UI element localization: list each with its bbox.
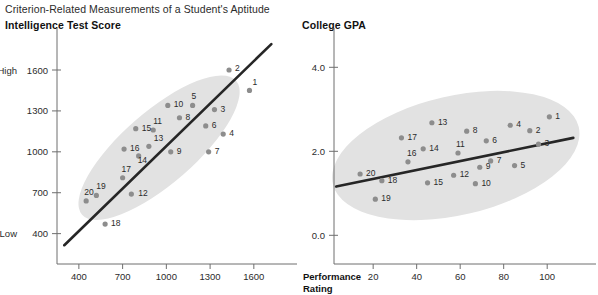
data-point-label: 4 [229, 128, 234, 138]
y-tick-label: 1000 [27, 146, 48, 157]
data-point-label: 7 [497, 155, 502, 165]
data-point [451, 173, 456, 178]
y-axis-high-label: High [0, 65, 17, 76]
data-point-label: 7 [215, 146, 220, 156]
data-point [373, 197, 378, 202]
data-point [484, 138, 489, 143]
data-point [547, 114, 552, 119]
data-point [221, 131, 226, 136]
data-cloud-ellipse [58, 53, 259, 241]
x-tick-label: 1000 [156, 271, 177, 282]
data-point [455, 150, 460, 155]
data-point-label: 9 [486, 161, 491, 171]
data-point-label: 3 [220, 104, 225, 114]
data-point [129, 191, 134, 196]
data-point [247, 88, 252, 93]
data-point-label: 15 [434, 177, 444, 187]
figure-root: Criterion-Related Measurements of a Stud… [0, 0, 598, 295]
data-cloud-ellipse [319, 69, 592, 242]
data-point-label: 19 [96, 181, 106, 191]
data-point [536, 142, 541, 147]
data-point-label: 18 [388, 175, 398, 185]
data-point [212, 107, 217, 112]
x-tick-label: 80 [498, 271, 509, 282]
y-axis-low-label: Low [0, 228, 17, 239]
data-point-label: 17 [407, 132, 417, 142]
data-point [133, 126, 138, 131]
data-point-label: 1 [555, 111, 560, 121]
data-point-label: 5 [521, 160, 526, 170]
x-tick-label: 40 [411, 271, 422, 282]
data-point-label: 17 [122, 164, 132, 174]
data-point-label: 11 [456, 139, 465, 149]
data-point-label: 13 [154, 133, 164, 143]
data-point-label: 3 [544, 138, 549, 148]
data-point [464, 129, 469, 134]
data-point [399, 135, 404, 140]
trend-line [64, 44, 271, 245]
y-tick-label: 0.0 [312, 230, 325, 241]
y-tick-label: 1300 [27, 105, 48, 116]
data-point [473, 181, 478, 186]
y-tick-label: 700 [32, 187, 48, 198]
y-tick-label: 2.0 [312, 146, 325, 157]
panel-gpa: College GPA 204060801000.02.04.0Performa… [298, 0, 598, 295]
data-point-label: 9 [177, 146, 182, 156]
x-tick-label: 1600 [243, 271, 264, 282]
data-point [165, 103, 170, 108]
x-tick-label: 60 [455, 271, 466, 282]
data-point-label: 1 [252, 77, 257, 87]
data-point-label: 13 [438, 117, 448, 127]
data-point-label: 20 [84, 187, 94, 197]
data-point-label: 16 [130, 143, 140, 153]
data-point [146, 144, 151, 149]
data-point-label: 11 [153, 116, 162, 126]
data-point-label: 20 [366, 168, 376, 178]
data-point-label: 8 [185, 112, 190, 122]
data-point [379, 178, 384, 183]
data-point [103, 221, 108, 226]
x-tick-label: 400 [71, 271, 87, 282]
data-point-label: 12 [138, 188, 148, 198]
data-point-label: 19 [381, 193, 391, 203]
data-point [94, 193, 99, 198]
data-point-label: 14 [429, 143, 439, 153]
data-point-label: 15 [142, 123, 152, 133]
data-point-label: 2 [235, 63, 240, 73]
data-point-label: 5 [192, 91, 197, 101]
data-point [206, 149, 211, 154]
data-point-label: 2 [536, 125, 541, 135]
data-point-label: 18 [111, 218, 121, 228]
data-point-label: 14 [138, 155, 148, 165]
data-point [177, 115, 182, 120]
chart-gpa: 204060801000.02.04.0PerformanceRating123… [298, 0, 598, 295]
data-point [405, 159, 410, 164]
x-tick-label: 1300 [200, 271, 221, 282]
data-point [527, 128, 532, 133]
data-point [203, 123, 208, 128]
data-point [512, 163, 517, 168]
x-tick-label: 700 [115, 271, 131, 282]
data-point [358, 171, 363, 176]
data-point [477, 165, 482, 170]
y-tick-label: 1600 [27, 65, 48, 76]
panel-intelligence: Intelligence Test Score 4007001000130016… [0, 0, 300, 295]
y-tick-label: 400 [32, 228, 48, 239]
x-tick-label: 100 [539, 271, 555, 282]
y-tick-label: 4.0 [312, 62, 325, 73]
data-point [120, 175, 125, 180]
data-point [168, 149, 173, 154]
data-point [151, 127, 156, 132]
data-point-label: 6 [492, 135, 497, 145]
data-point [84, 198, 89, 203]
data-point-label: 10 [481, 178, 491, 188]
data-point-label: 4 [516, 119, 521, 129]
data-point [425, 180, 430, 185]
data-point-label: 12 [460, 169, 470, 179]
chart-intelligence: 400700100013001600400700100013001600High… [0, 0, 300, 295]
data-point [508, 123, 513, 128]
data-point-label: 6 [212, 120, 217, 130]
data-point [226, 67, 231, 72]
data-point [121, 146, 126, 151]
x-tick-label: 20 [368, 271, 379, 282]
